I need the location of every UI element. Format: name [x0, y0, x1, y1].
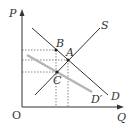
shifted-demand-label: D′: [90, 93, 103, 106]
x-axis-arrow-icon: [117, 105, 124, 110]
demand-label: D: [110, 90, 120, 103]
point-a-label: A: [65, 46, 74, 59]
origin-label: O: [12, 109, 21, 122]
supply-demand-diagram: P Q O S D D′ A B C: [0, 0, 135, 127]
point-b-label: B: [55, 37, 64, 50]
y-axis-label: P: [8, 7, 17, 20]
supply-label: S: [101, 19, 109, 32]
y-axis-arrow-icon: [20, 9, 25, 16]
demand-curve: [32, 28, 108, 95]
point-c-label: C: [53, 74, 62, 87]
x-axis-label: Q: [117, 111, 126, 124]
